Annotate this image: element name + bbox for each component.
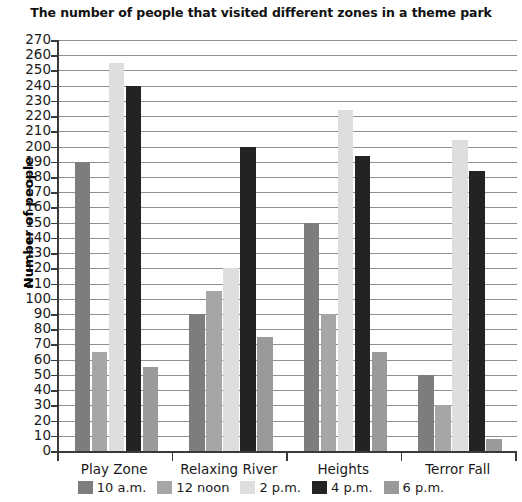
y-axis-tick-label: 50 xyxy=(9,368,51,381)
legend-label: 10 a.m. xyxy=(97,480,147,495)
legend: 10 a.m.12 noon2 p.m.4 p.m.6 p.m. xyxy=(0,480,522,495)
gridline xyxy=(59,70,517,71)
bar xyxy=(321,314,337,451)
bar xyxy=(304,223,320,451)
y-axis-tick-label: 90 xyxy=(9,307,51,320)
bar xyxy=(452,140,468,451)
y-axis-tick-label: 30 xyxy=(9,398,51,411)
y-axis-tick-label: 210 xyxy=(9,124,51,137)
legend-item[interactable]: 2 p.m. xyxy=(240,480,301,495)
bar xyxy=(338,110,354,451)
y-axis-tick-label: 60 xyxy=(9,353,51,366)
bar xyxy=(189,314,205,451)
x-axis-tick-mark xyxy=(286,453,288,461)
legend-item[interactable]: 4 p.m. xyxy=(312,480,373,495)
legend-label: 12 noon xyxy=(176,480,229,495)
legend-label: 2 p.m. xyxy=(259,480,301,495)
bar xyxy=(143,367,159,451)
y-axis-tick-label: 130 xyxy=(9,246,51,259)
legend-swatch xyxy=(78,481,93,494)
y-axis-tick-label: 40 xyxy=(9,383,51,396)
bar xyxy=(469,171,485,451)
x-axis-tick-mark xyxy=(401,453,403,461)
legend-swatch xyxy=(384,481,399,494)
gridline xyxy=(59,55,517,56)
bar xyxy=(92,352,108,451)
bar xyxy=(257,337,273,451)
y-axis-tick-label: 250 xyxy=(9,63,51,76)
bar xyxy=(223,268,239,451)
bar xyxy=(355,156,371,451)
y-axis-tick-label: 0 xyxy=(9,444,51,457)
y-axis-tick-label: 200 xyxy=(9,140,51,153)
chart-title: The number of people that visited differ… xyxy=(0,5,522,20)
y-axis-tick-label: 230 xyxy=(9,94,51,107)
y-axis-tick-label: 10 xyxy=(9,429,51,442)
gridline xyxy=(59,40,517,41)
legend-item[interactable]: 10 a.m. xyxy=(78,480,147,495)
bar xyxy=(240,147,256,451)
y-axis-tick-label: 260 xyxy=(9,48,51,61)
y-axis-tick-label: 80 xyxy=(9,322,51,335)
bar xyxy=(418,375,434,451)
legend-swatch xyxy=(240,481,255,494)
legend-item[interactable]: 12 noon xyxy=(157,480,229,495)
y-axis-tick-label: 170 xyxy=(9,185,51,198)
legend-swatch xyxy=(157,481,172,494)
legend-label: 4 p.m. xyxy=(331,480,373,495)
legend-item[interactable]: 6 p.m. xyxy=(384,480,445,495)
legend-swatch xyxy=(312,481,327,494)
x-axis-tick-mark xyxy=(57,453,59,461)
y-axis-tick-label: 190 xyxy=(9,155,51,168)
chart-page: The number of people that visited differ… xyxy=(0,0,522,502)
y-axis-tick-label: 100 xyxy=(9,292,51,305)
bar xyxy=(486,439,502,451)
y-axis-tick-label: 240 xyxy=(9,79,51,92)
x-axis-category-label: Heights xyxy=(286,461,401,477)
bar xyxy=(435,405,451,451)
y-axis-tick-label: 270 xyxy=(9,33,51,46)
y-axis-tick-label: 110 xyxy=(9,277,51,290)
x-axis-tick-mark xyxy=(172,453,174,461)
plot-area xyxy=(57,40,517,453)
x-axis-category-label: Relaxing River xyxy=(172,461,287,477)
y-axis-tick-label: 140 xyxy=(9,231,51,244)
y-axis-tick-label: 180 xyxy=(9,170,51,183)
x-axis-category-label: Play Zone xyxy=(57,461,172,477)
bar xyxy=(126,86,142,451)
bar xyxy=(109,63,125,451)
legend-label: 6 p.m. xyxy=(403,480,445,495)
y-axis-tick-label: 120 xyxy=(9,261,51,274)
x-axis-category-label: Terror Fall xyxy=(401,461,516,477)
bar xyxy=(206,291,222,451)
bar xyxy=(75,162,91,451)
x-axis-tick-mark xyxy=(515,453,517,461)
y-axis-tick-label: 70 xyxy=(9,337,51,350)
y-axis-tick-label: 20 xyxy=(9,414,51,427)
y-axis-tick-label: 220 xyxy=(9,109,51,122)
bar xyxy=(372,352,388,451)
y-axis-tick-label: 150 xyxy=(9,216,51,229)
y-axis-tick-label: 160 xyxy=(9,200,51,213)
